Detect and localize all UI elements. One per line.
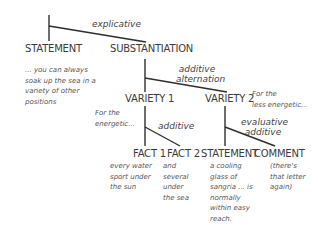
node-fact-1: FACT 1 — [133, 148, 166, 159]
tree-lines — [0, 0, 318, 231]
node-fact-2: FACT 2 — [167, 148, 200, 159]
note-line: again) — [270, 182, 305, 193]
relation-label-line: additive — [176, 64, 218, 74]
note-line: less energetic... — [252, 100, 308, 111]
note-line: a cooling — [210, 161, 253, 172]
node-statement-top: STATEMENT — [25, 43, 82, 54]
note-fact-1: every water sport under the sun — [110, 161, 152, 193]
note-statement-top: ... you can always soak up the sea in a … — [25, 65, 96, 107]
note-line: (there's — [270, 161, 305, 172]
relation-label-line: evaluative — [241, 117, 285, 127]
note-variety-2: For the less energetic... — [252, 89, 308, 110]
rhetorical-structure-diagram: explicative additive alternation additiv… — [0, 0, 318, 231]
node-variety-2: VARIETY 2 — [205, 93, 254, 104]
note-line: and — [163, 161, 189, 172]
node-variety-1: VARIETY 1 — [125, 93, 174, 104]
relation-label-line: additive — [241, 127, 285, 137]
note-line: normally — [210, 193, 253, 204]
note-line: that letter — [270, 172, 305, 183]
relation-label-line: alternation — [176, 74, 218, 84]
note-fact-2: and several under the sea — [163, 161, 189, 203]
note-line: several — [163, 172, 189, 183]
relation-additive-alternation: additive alternation — [176, 64, 218, 84]
node-comment: COMMENT — [254, 148, 305, 159]
note-line: under — [163, 182, 189, 193]
relation-evaluative-additive: evaluative additive — [241, 117, 285, 137]
note-line: every water — [110, 161, 152, 172]
note-line: the sun — [110, 182, 152, 193]
node-statement-bottom: STATEMENT — [201, 148, 258, 159]
note-line: soak up the sea in a — [25, 76, 96, 87]
note-line: glass of — [210, 172, 253, 183]
note-line: positions — [25, 97, 96, 108]
note-statement-bottom: a cooling glass of sangria ... is normal… — [210, 161, 253, 224]
note-line: For the — [95, 108, 135, 119]
note-line: the sea — [163, 193, 189, 204]
note-line: reach. — [210, 214, 253, 225]
note-line: variety of other — [25, 86, 96, 97]
note-line: energetic... — [95, 119, 135, 130]
note-line: sangria ... is — [210, 182, 253, 193]
note-line: within easy — [210, 203, 253, 214]
note-variety-1: For the energetic... — [95, 108, 135, 129]
note-line: sport under — [110, 172, 152, 183]
note-line: For the — [252, 89, 308, 100]
note-line: ... you can always — [25, 65, 96, 76]
node-substantiation: SUBSTANTIATION — [110, 43, 193, 54]
relation-additive: additive — [158, 121, 194, 131]
relation-explicative: explicative — [92, 19, 141, 29]
note-comment: (there's that letter again) — [270, 161, 305, 193]
